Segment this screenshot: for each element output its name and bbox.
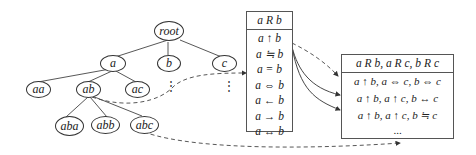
tree-node-ac: ac xyxy=(125,81,150,98)
tree-node-c: c xyxy=(212,55,237,72)
tree-node-aba: aba xyxy=(55,116,84,136)
relation-row: a ⇔ b xyxy=(247,78,292,94)
relation-row: a ↔ b xyxy=(247,124,292,140)
tree-node-root: root xyxy=(154,21,184,41)
tree-ellipsis-2: ⋮ xyxy=(223,84,235,88)
tree-node-ab: ab xyxy=(76,81,101,98)
relation-table-header: a R b xyxy=(247,12,292,30)
triple-table-header: a R b, a R c, b R c xyxy=(342,55,453,73)
triple-ellipsis: ... xyxy=(342,124,453,136)
relation-row: a ← b xyxy=(247,93,292,109)
relation-row: a → b xyxy=(247,109,292,125)
tree-node-a: a xyxy=(100,55,126,72)
relation-table: a R b a ↑ b a ≒ b a = b a ⇔ b a ← b a → … xyxy=(246,11,293,132)
triple-row: a ↑ b, a ↑ c, b ≒ c xyxy=(342,107,453,124)
triple-row: a ↑ b, a ↑ c, b ↔ c xyxy=(342,90,453,107)
relation-row: a = b xyxy=(247,62,292,78)
tree-node-aa: aa xyxy=(26,81,51,98)
relation-row: a ↑ b xyxy=(247,31,292,47)
tree-node-abc: abc xyxy=(130,116,159,134)
tree-node-b: b xyxy=(157,55,181,72)
triple-table: a R b, a R c, b R c a ↑ b, a ⇔ c, b ⇔ c … xyxy=(341,54,454,139)
tree-ellipsis-1: ⋮ xyxy=(165,84,177,88)
relation-row: a ≒ b xyxy=(247,47,292,63)
tree-node-abb: abb xyxy=(91,116,120,134)
triple-row: a ↑ b, a ⇔ c, b ⇔ c xyxy=(342,73,453,90)
